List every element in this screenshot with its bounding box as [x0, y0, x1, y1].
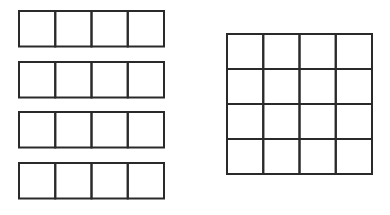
- strip-cell: [128, 112, 164, 148]
- strip-3: [19, 112, 164, 148]
- strip-cell: [128, 163, 164, 199]
- grid-cell: [263, 69, 299, 104]
- strip-cell: [92, 11, 128, 47]
- grid-cell: [300, 69, 336, 104]
- four-by-four-square-grid: [227, 34, 372, 174]
- strip-cell: [128, 62, 164, 98]
- strip-4: [19, 163, 164, 199]
- strip-cell: [92, 163, 128, 199]
- strip-cell: [55, 62, 91, 98]
- grid-cell: [263, 104, 299, 139]
- grid-cell: [227, 139, 263, 174]
- grid-cell: [300, 34, 336, 69]
- grid-cell: [227, 104, 263, 139]
- grid-cell: [263, 139, 299, 174]
- strip-cell: [19, 62, 55, 98]
- grid-cell: [227, 69, 263, 104]
- strip-cell: [92, 112, 128, 148]
- strip-cell: [128, 11, 164, 47]
- strip-cell: [19, 112, 55, 148]
- strip-2: [19, 62, 164, 98]
- four-strips-of-four-squares: [19, 11, 164, 199]
- grid-cell: [336, 34, 372, 69]
- strip-1: [19, 11, 164, 47]
- strip-cell: [19, 163, 55, 199]
- strip-cell: [92, 62, 128, 98]
- grid-cell: [300, 139, 336, 174]
- strip-cell: [55, 163, 91, 199]
- diagram-canvas: [0, 0, 390, 215]
- strip-cell: [55, 112, 91, 148]
- strip-cell: [55, 11, 91, 47]
- grid-cell: [336, 69, 372, 104]
- grid-cell: [300, 104, 336, 139]
- strip-cell: [19, 11, 55, 47]
- grid-cell: [336, 104, 372, 139]
- grid-cell: [227, 34, 263, 69]
- grid-cell: [336, 139, 372, 174]
- grid-cell: [263, 34, 299, 69]
